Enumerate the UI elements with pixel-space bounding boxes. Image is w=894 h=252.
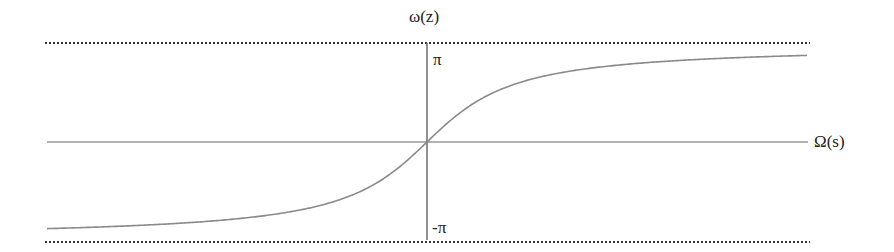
y-axis-label: ω(z) bbox=[409, 8, 439, 25]
x-axis-label: Ω(s) bbox=[814, 133, 845, 150]
tick-pi-label: π bbox=[433, 51, 442, 68]
tick-neg-pi-label: -π bbox=[432, 219, 446, 236]
warping-diagram bbox=[0, 0, 894, 252]
